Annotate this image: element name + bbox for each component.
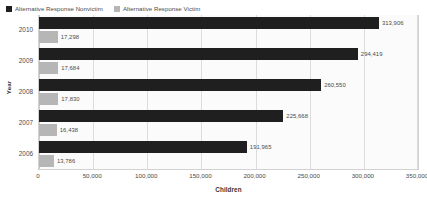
bar-label-nonvictim: 294,419: [361, 51, 383, 58]
bar-label-victim: 17,684: [61, 65, 79, 72]
x-tick-label: 300,000: [352, 172, 374, 180]
y-tick-label: 2009: [19, 57, 33, 65]
bar-label-nonvictim: 191,965: [250, 144, 272, 151]
bar-nonvictim[interactable]: [39, 141, 247, 153]
x-axis-title: Children: [38, 186, 419, 193]
bar-victim[interactable]: [39, 62, 58, 74]
bar-label-nonvictim: 313,906: [382, 20, 404, 27]
bar-group: 294,41917,684: [39, 46, 418, 77]
bar-victim[interactable]: [39, 31, 58, 43]
y-tick-label: 2008: [19, 88, 33, 96]
bar-nonvictim[interactable]: [39, 79, 321, 91]
legend-entry-nonvictim[interactable]: Alternative Response Nonvictim: [6, 5, 103, 12]
bar-group: 225,66816,438: [39, 107, 418, 138]
x-tick-label: 250,000: [298, 172, 320, 180]
bar-group: 260,55017,830: [39, 77, 418, 108]
x-tick-label: 0: [36, 172, 39, 180]
plot-area: 313,90617,298294,41917,684260,55017,8302…: [38, 15, 419, 170]
y-tick-label: 2010: [19, 26, 33, 34]
legend-label-nonvictim: Alternative Response Nonvictim: [15, 5, 103, 12]
chart-legend: Alternative Response Nonvictim Alternati…: [6, 3, 200, 14]
x-tick-label: 50,000: [83, 172, 102, 180]
bar-label-nonvictim: 260,550: [324, 82, 346, 89]
x-tick-label: 150,000: [189, 172, 211, 180]
bars-layer: 313,90617,298294,41917,684260,55017,8302…: [39, 15, 418, 169]
bar-label-victim: 17,830: [61, 96, 79, 103]
legend-swatch-victim: [114, 6, 120, 12]
bar-nonvictim[interactable]: [39, 48, 358, 60]
x-tick-label: 200,000: [243, 172, 265, 180]
bar-victim[interactable]: [39, 93, 58, 105]
bar-nonvictim[interactable]: [39, 17, 379, 29]
bar-label-victim: 17,298: [61, 34, 79, 41]
legend-entry-victim[interactable]: Alternative Response Victim: [114, 5, 200, 12]
y-tick-label: 2006: [19, 150, 33, 158]
bar-victim[interactable]: [39, 155, 54, 167]
bar-label-victim: 13,786: [57, 158, 75, 165]
y-axis-tick-labels: 20102009200820072006: [0, 15, 38, 170]
bar-label-nonvictim: 225,668: [286, 113, 308, 120]
bar-nonvictim[interactable]: [39, 110, 283, 122]
x-tick-label: 100,000: [135, 172, 157, 180]
bar-label-victim: 16,438: [60, 127, 78, 134]
legend-swatch-nonvictim: [6, 6, 12, 12]
x-axis-tick-labels: 050,000100,000150,000200,000250,000300,0…: [38, 172, 419, 182]
y-tick-label: 2007: [19, 119, 33, 127]
bar-group: 313,90617,298: [39, 15, 418, 46]
legend-label-victim: Alternative Response Victim: [123, 5, 200, 12]
bar-group: 191,96513,786: [39, 138, 418, 169]
bar-victim[interactable]: [39, 124, 57, 136]
bar-chart: Alternative Response Nonvictim Alternati…: [0, 0, 427, 209]
x-tick-label: 350,000: [406, 172, 427, 180]
